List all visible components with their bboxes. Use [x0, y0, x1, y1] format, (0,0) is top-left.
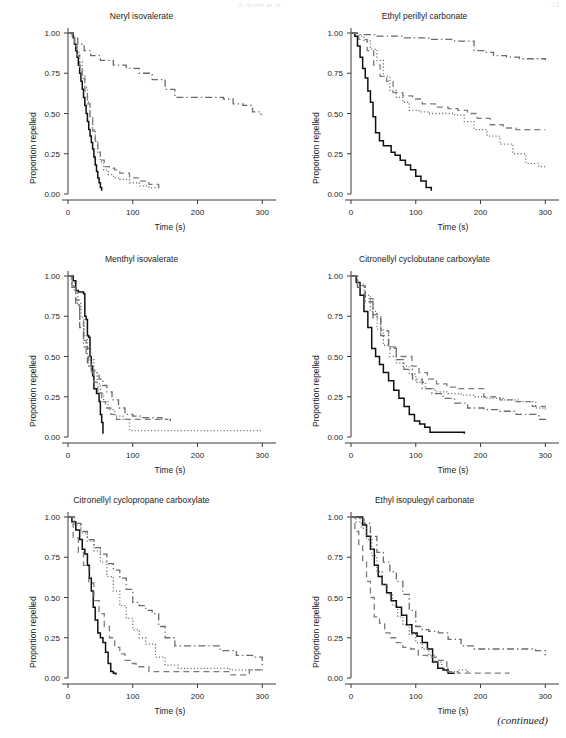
x-tick-label: 100 [126, 208, 140, 217]
y-tick-label: 0.25 [44, 634, 60, 643]
survival-curve-solid [351, 517, 455, 673]
survival-curve-solid [351, 276, 464, 434]
panel-ethyl-perillyl-carbonate: Ethyl perillyl carbonate 0.000.250.500.7… [283, 8, 566, 251]
x-tick-label: 0 [349, 451, 354, 460]
y-tick-label: 1.00 [327, 29, 343, 38]
y-tick-label: 0.50 [44, 353, 60, 362]
x-axis-label: Time (s) [351, 465, 555, 475]
x-tick-label: 300 [539, 208, 553, 217]
panel-menthyl-isovalerate: Menthyl isovalerate 0.000.250.500.751.00… [0, 251, 283, 494]
figure-panel-grid: Neryl isovalerate 0.000.250.500.751.0001… [0, 8, 566, 738]
y-tick-label: 0.00 [327, 190, 343, 199]
x-tick-label: 300 [256, 451, 270, 460]
survival-curve-dashed [351, 33, 545, 130]
survival-curve-dashed [351, 276, 545, 411]
x-tick-label: 200 [474, 208, 488, 217]
x-tick-label: 200 [191, 451, 205, 460]
x-tick-label: 100 [126, 451, 140, 460]
survival-curve-dash-dot [68, 276, 170, 421]
y-tick-label: 1.00 [44, 29, 60, 38]
survival-curve-dotted [68, 33, 159, 189]
survival-curve-dashed [68, 276, 168, 419]
continued-label: (continued) [497, 714, 548, 726]
y-tick-label: 0.00 [44, 190, 60, 199]
y-tick-label: 0.75 [44, 69, 60, 78]
x-tick-label: 200 [191, 692, 205, 701]
y-tick-label: 0.50 [327, 110, 343, 119]
survival-curve-dash-dot [351, 276, 545, 423]
y-tick-label: 0.25 [327, 634, 343, 643]
plot-area: 0.000.250.500.751.000100200300 [283, 492, 566, 735]
x-tick-label: 0 [349, 692, 354, 701]
y-tick-label: 0.00 [327, 674, 343, 683]
x-tick-label: 100 [409, 451, 423, 460]
y-axis-label: Proportion repelled [311, 112, 321, 184]
panel-neryl-isovalerate: Neryl isovalerate 0.000.250.500.751.0001… [0, 8, 283, 251]
survival-curve-solid [68, 276, 103, 434]
survival-curve-solid [68, 517, 116, 675]
x-tick-label: 300 [539, 451, 553, 460]
y-tick-label: 0.25 [327, 393, 343, 402]
y-tick-label: 1.00 [44, 272, 60, 281]
x-tick-label: 0 [66, 208, 71, 217]
y-tick-label: 0.50 [44, 110, 60, 119]
y-tick-label: 0.75 [327, 553, 343, 562]
y-axis-label: Proportion repelled [28, 596, 38, 668]
y-tick-label: 0.00 [327, 433, 343, 442]
page-number: 11 [552, 1, 560, 8]
survival-curve-dotted [68, 517, 262, 670]
survival-curve-dashed [68, 33, 159, 188]
x-tick-label: 0 [66, 451, 71, 460]
y-tick-label: 0.25 [44, 393, 60, 402]
panel-ethyl-isopulegyl-carbonate: Ethyl isopulegyl carbonate 0.000.250.500… [283, 492, 566, 735]
survival-curve-dotted [351, 276, 545, 410]
y-tick-label: 0.25 [327, 150, 343, 159]
survival-curve-dash-dot [351, 517, 545, 655]
y-tick-label: 0.75 [44, 312, 60, 321]
plot-area: 0.000.250.500.751.000100200300 [0, 251, 283, 494]
survival-curve-dotted [351, 33, 545, 168]
y-tick-label: 0.50 [327, 594, 343, 603]
y-tick-label: 0.25 [44, 150, 60, 159]
x-axis-label: Time (s) [68, 465, 272, 475]
y-axis-label: Proportion repelled [311, 355, 321, 427]
y-tick-label: 1.00 [327, 272, 343, 281]
x-tick-label: 100 [409, 692, 423, 701]
plot-area: 0.000.250.500.751.000100200300 [283, 8, 566, 251]
plot-area: 0.000.250.500.751.000100200300 [283, 251, 566, 494]
x-tick-label: 200 [474, 692, 488, 701]
y-axis-label: Proportion repelled [28, 355, 38, 427]
x-axis-label: Time (s) [68, 222, 272, 232]
y-tick-label: 0.75 [44, 553, 60, 562]
y-tick-label: 0.50 [44, 594, 60, 603]
y-axis-label: Proportion repelled [311, 596, 321, 668]
survival-curve-dotted [68, 276, 262, 431]
x-tick-label: 0 [66, 692, 71, 701]
y-tick-label: 0.00 [44, 433, 60, 442]
x-tick-label: 100 [409, 208, 423, 217]
x-tick-label: 100 [126, 692, 140, 701]
survival-curve-dash-dot [351, 33, 545, 60]
survival-curve-dash-dot [68, 33, 261, 115]
y-axis-label: Proportion repelled [28, 112, 38, 184]
x-tick-label: 200 [191, 208, 205, 217]
survival-curve-solid [68, 33, 102, 191]
y-tick-label: 0.75 [327, 312, 343, 321]
survival-curve-solid [351, 33, 431, 191]
plot-area: 0.000.250.500.751.000100200300 [0, 492, 283, 735]
y-tick-label: 1.00 [44, 513, 60, 522]
y-tick-label: 1.00 [327, 513, 343, 522]
x-axis-label: Time (s) [68, 706, 272, 716]
y-tick-label: 0.75 [327, 69, 343, 78]
panel-citronellyl-cyclopropane-carboxylate: Citronellyl cyclopropane carboxylate 0.0… [0, 492, 283, 735]
x-tick-label: 200 [474, 451, 488, 460]
x-tick-label: 300 [539, 692, 553, 701]
y-tick-label: 0.00 [44, 674, 60, 683]
x-tick-label: 300 [256, 208, 270, 217]
survival-curve-dash-dot [68, 517, 262, 667]
y-tick-label: 0.50 [327, 353, 343, 362]
x-axis-label: Time (s) [351, 222, 555, 232]
plot-area: 0.000.250.500.751.000100200300 [0, 8, 283, 251]
x-tick-label: 300 [256, 692, 270, 701]
x-tick-label: 0 [349, 208, 354, 217]
